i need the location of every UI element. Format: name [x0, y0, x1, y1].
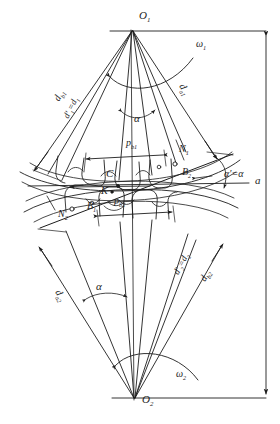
- point-B2-marker: [173, 162, 177, 166]
- radius-da1-right: [133, 31, 216, 158]
- fillet-gear1-c: [136, 171, 150, 176]
- radius-db2-left: [66, 231, 134, 398]
- radius-dp1-right: [133, 31, 176, 163]
- gear-meshing-diagram: O1 O2 ω1 ω2 da1 db1 d'1=d1 da2 db2 d'2=d…: [0, 0, 280, 424]
- radius-da1-left: [35, 31, 132, 170]
- fillet-gear1-a: [68, 167, 83, 172]
- tooth-gear2-b: [132, 190, 157, 219]
- point-N2-marker: [70, 207, 74, 211]
- arrow-da1-left: [34, 152, 48, 171]
- root-arc-gear2-a: [104, 206, 124, 211]
- construction-right-upper: [207, 152, 233, 155]
- arrow-db2-right: [212, 244, 223, 261]
- radius-db2-right: [135, 245, 222, 398]
- diagram-canvas: [0, 0, 280, 424]
- radius-inner-left-lower: [120, 222, 134, 398]
- radius-inner-left: [119, 31, 132, 180]
- point-N1-marker: [157, 165, 161, 169]
- radius-db1-left: [48, 31, 132, 174]
- pb2-ext-right: [173, 206, 175, 222]
- pb2-ext-left: [97, 210, 99, 226]
- alpha-arc-bottom: [86, 293, 127, 299]
- point-B1-marker: [90, 201, 94, 205]
- construction-left-lower: [38, 229, 66, 232]
- leader-N2: [47, 196, 55, 210]
- point-C-marker: [117, 185, 120, 188]
- radius-d2-right: [135, 240, 196, 398]
- pb1-ext-right: [164, 150, 166, 166]
- radius-dp1-left: [62, 31, 132, 180]
- arrow-da2-left: [39, 247, 52, 266]
- radius-da2-left: [40, 248, 134, 398]
- pb2-dimension: [98, 212, 172, 216]
- leader-N1: [176, 140, 184, 160]
- pb1-dimension: [86, 155, 163, 159]
- omega2-arc: [116, 353, 198, 380]
- pb1-ext-left: [84, 153, 86, 172]
- point-K-marker: [111, 191, 113, 193]
- alpha-arc-top: [122, 110, 155, 118]
- arrow-da1-right: [205, 141, 217, 159]
- fillet-gear1-b: [101, 172, 116, 177]
- fillet-gear2-b: [152, 202, 167, 207]
